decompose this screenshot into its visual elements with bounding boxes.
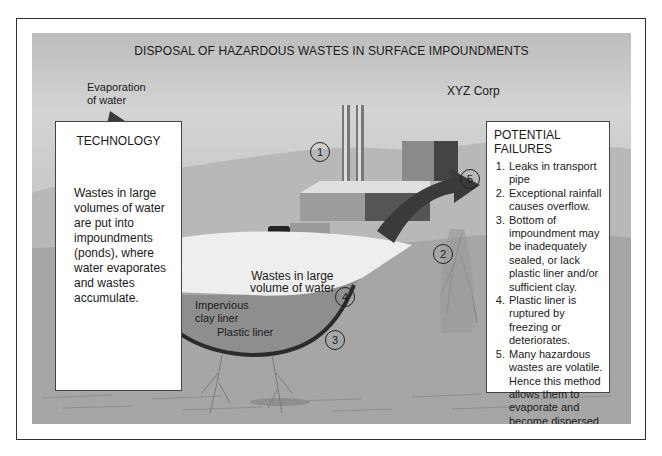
technology-box: TECHNOLOGY Wastes in large volumes of wa… xyxy=(55,121,182,391)
pond-label: Wastes in large volume of water xyxy=(250,270,335,294)
technology-body: Wastes in large volumes of water are put… xyxy=(74,186,179,306)
marker-4: 4 xyxy=(335,287,355,307)
failure-item: Exceptional rainfall causes overflow. xyxy=(508,187,604,214)
marker-2: 2 xyxy=(433,244,453,264)
failure-item: Plastic liner is ruptured by freezing or… xyxy=(508,294,604,348)
diagram-title: DISPOSAL OF HAZARDOUS WASTES IN SURFACE … xyxy=(32,44,631,58)
potential-failures-box: POTENTIAL FAILURES Leaks in transport pi… xyxy=(486,121,610,393)
potential-failures-list: Leaks in transport pipe Exceptional rain… xyxy=(494,160,604,424)
clay-liner-label: Impervious clay liner xyxy=(195,299,249,325)
marker-5: 5 xyxy=(460,169,480,189)
marker-1: 1 xyxy=(310,142,330,162)
potential-failures-heading: POTENTIAL FAILURES xyxy=(494,128,604,156)
failure-item: Many hazardous wastes are volatile. Henc… xyxy=(508,348,604,424)
failure-item: Bottom of impoundment may be inadequatel… xyxy=(508,214,604,294)
evaporation-label: Evaporation of water xyxy=(87,81,146,107)
technology-heading: TECHNOLOGY xyxy=(56,134,181,148)
plastic-liner-label: Plastic liner xyxy=(217,326,273,339)
company-label: XYZ Corp xyxy=(447,85,500,98)
marker-3: 3 xyxy=(325,330,345,350)
failure-item: Leaks in transport pipe xyxy=(508,160,604,187)
diagram-scene: DISPOSAL OF HAZARDOUS WASTES IN SURFACE … xyxy=(32,33,631,424)
